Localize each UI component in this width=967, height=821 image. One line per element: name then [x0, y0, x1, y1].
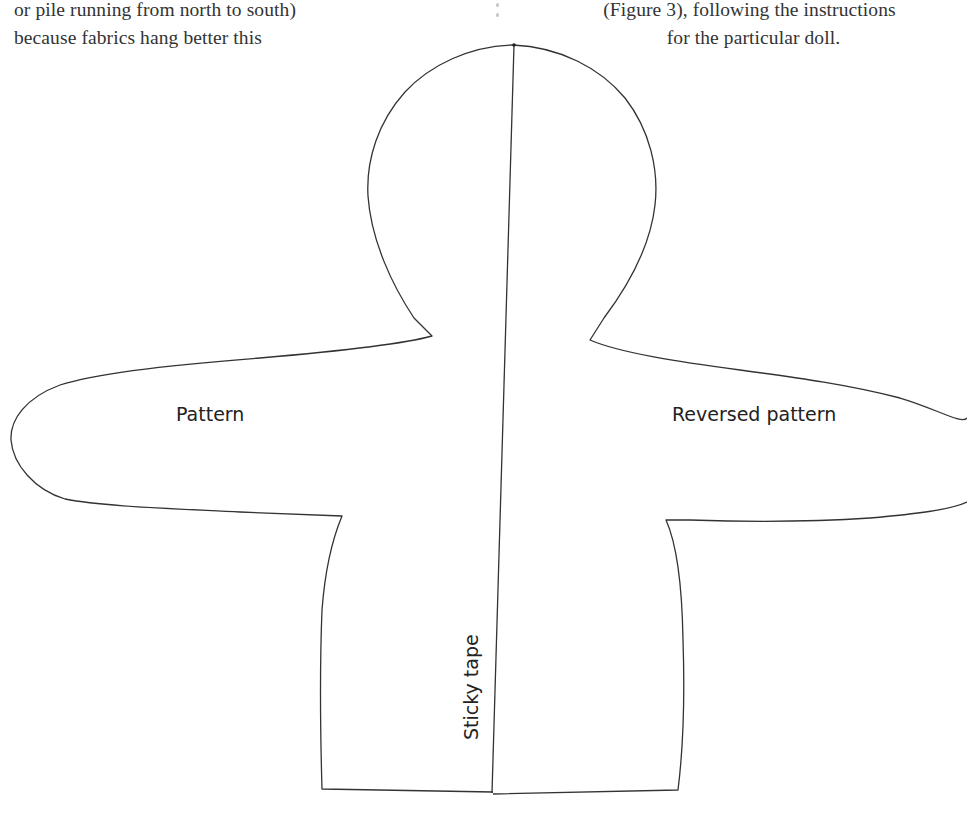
pattern-label: Pattern [176, 403, 244, 425]
reversed-pattern-label: Reversed pattern [672, 403, 836, 425]
sticky-tape-line [492, 45, 514, 793]
top-join-point [512, 43, 516, 47]
pattern-outline-left [11, 45, 513, 792]
sticky-tape-label: Sticky tape [460, 634, 482, 740]
